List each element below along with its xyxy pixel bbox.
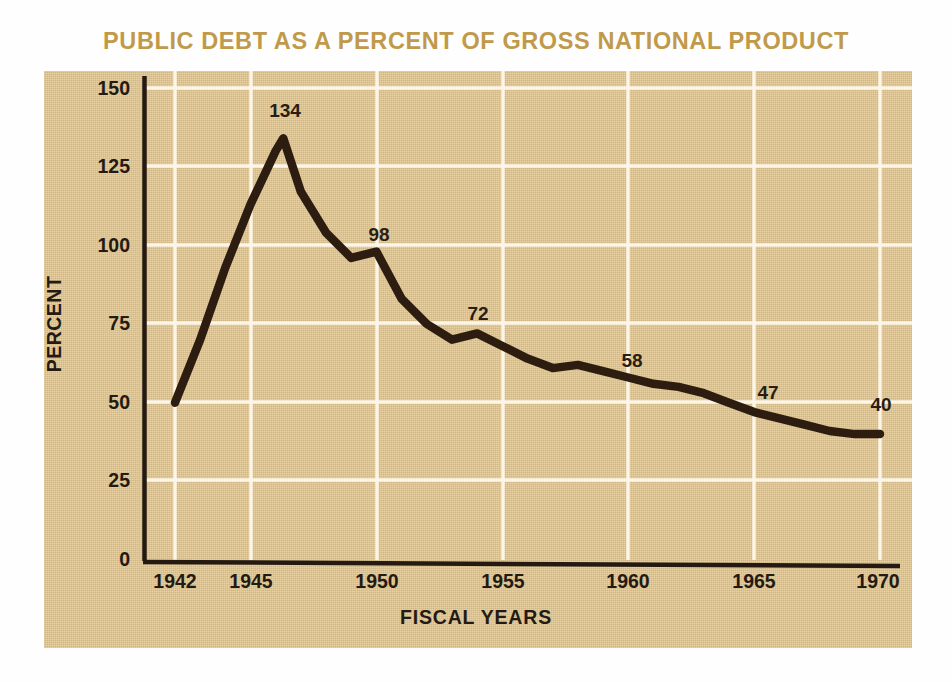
y-tick-75: 75 <box>82 312 130 335</box>
page-title: PUBLIC DEBT AS A PERCENT OF GROSS NATION… <box>0 28 952 55</box>
y-tick-100: 100 <box>82 234 130 257</box>
point-label-58: 58 <box>621 350 642 372</box>
y-tick-25: 25 <box>82 469 130 492</box>
x-tick-1965: 1965 <box>714 570 794 593</box>
point-label-40: 40 <box>870 394 891 416</box>
x-tick-1955: 1955 <box>463 570 543 593</box>
point-label-72: 72 <box>467 303 488 325</box>
y-axis-title: PERCENT <box>43 276 66 373</box>
chart-panel <box>44 71 912 648</box>
y-tick-150: 150 <box>82 77 130 100</box>
y-tick-50: 50 <box>82 391 130 414</box>
x-tick-1945: 1945 <box>211 570 291 593</box>
y-tick-0: 0 <box>82 548 130 571</box>
x-axis-title: FISCAL YEARS <box>0 606 952 629</box>
x-tick-1960: 1960 <box>588 570 668 593</box>
point-label-134: 134 <box>269 100 301 122</box>
point-label-47: 47 <box>757 382 778 404</box>
x-tick-1950: 1950 <box>337 570 417 593</box>
x-tick-1970: 1970 <box>838 570 918 593</box>
chart-page: PUBLIC DEBT AS A PERCENT OF GROSS NATION… <box>0 0 952 682</box>
point-label-98: 98 <box>368 224 389 246</box>
x-tick-1942: 1942 <box>135 570 215 593</box>
y-tick-125: 125 <box>82 155 130 178</box>
